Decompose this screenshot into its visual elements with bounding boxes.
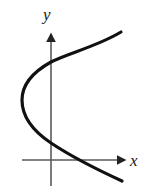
- y-axis-label: y: [43, 6, 51, 23]
- x-axis-label: x: [130, 152, 138, 169]
- parabola-figure: y x: [0, 0, 150, 191]
- graph-canvas: [0, 0, 150, 191]
- y-axis-arrow-icon: [46, 33, 56, 43]
- parabola-curve: [22, 32, 122, 181]
- x-axis-arrow-icon: [117, 155, 127, 165]
